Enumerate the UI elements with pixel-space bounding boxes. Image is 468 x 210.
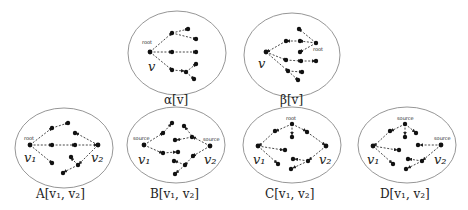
A-vertex-v2: v₂ xyxy=(91,150,104,165)
C-caption: C[v₁, v₂] xyxy=(265,187,314,201)
B-caption: B[v₁, v₂] xyxy=(150,187,199,201)
alpha-vertex-v: v xyxy=(148,59,156,74)
D-vertex-v2: v₂ xyxy=(434,152,447,167)
D-vertex-v1: v₁ xyxy=(367,152,380,167)
D-source-label-top: source xyxy=(397,115,414,121)
A-nodes xyxy=(28,121,101,175)
A-caption: A[v₁, v₂] xyxy=(35,187,85,201)
C-edges xyxy=(258,124,326,168)
panel-alpha: root v α[v] xyxy=(128,11,226,107)
beta-boundary-ellipse xyxy=(244,13,340,97)
panel-C: root v₁ v₂ C[v₁, v₂] xyxy=(243,107,341,201)
B-edges xyxy=(144,124,210,173)
A-edges xyxy=(30,123,98,172)
A-vertex-v1: v₁ xyxy=(24,150,37,165)
panel-A: root v₁ v₂ A[v₁, v₂] xyxy=(15,108,113,201)
D-caption: D[v₁, v₂] xyxy=(380,187,430,201)
C-vertex-v1: v₁ xyxy=(253,152,266,167)
alpha-caption: α[v] xyxy=(164,93,188,107)
B-source-label-right: source xyxy=(203,136,220,142)
B-vertex-v1: v₁ xyxy=(138,152,151,167)
beta-caption: β[v] xyxy=(280,93,303,107)
alpha-root-label: root xyxy=(142,39,152,45)
alpha-boundary-ellipse xyxy=(128,11,226,95)
A-root-label: root xyxy=(24,135,34,141)
panel-D: source source v₁ v₂ D[v₁, v₂] xyxy=(358,107,456,201)
B-source-label-left: source xyxy=(133,135,150,141)
beta-edges xyxy=(266,29,316,80)
D-edges xyxy=(373,124,441,168)
B-vertex-v2: v₂ xyxy=(204,152,217,167)
C-vertex-v2: v₂ xyxy=(319,152,332,167)
diagram-canvas: root v α[v] xyxy=(0,0,468,210)
beta-root-label: root xyxy=(313,46,323,52)
D-source-label-right: source xyxy=(434,135,451,141)
A-boundary-ellipse xyxy=(15,108,113,188)
C-root-label: root xyxy=(286,115,296,121)
panel-B: source source v₁ v₂ B[v₁, v₂] xyxy=(127,107,225,201)
beta-vertex-v: v xyxy=(258,56,266,71)
panel-beta: root v β[v] xyxy=(244,13,340,107)
D-nodes xyxy=(371,122,444,171)
